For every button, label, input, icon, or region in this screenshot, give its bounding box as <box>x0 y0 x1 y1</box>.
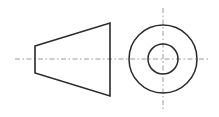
technical-drawing-canvas <box>0 0 219 117</box>
drawing-svg <box>0 0 219 117</box>
